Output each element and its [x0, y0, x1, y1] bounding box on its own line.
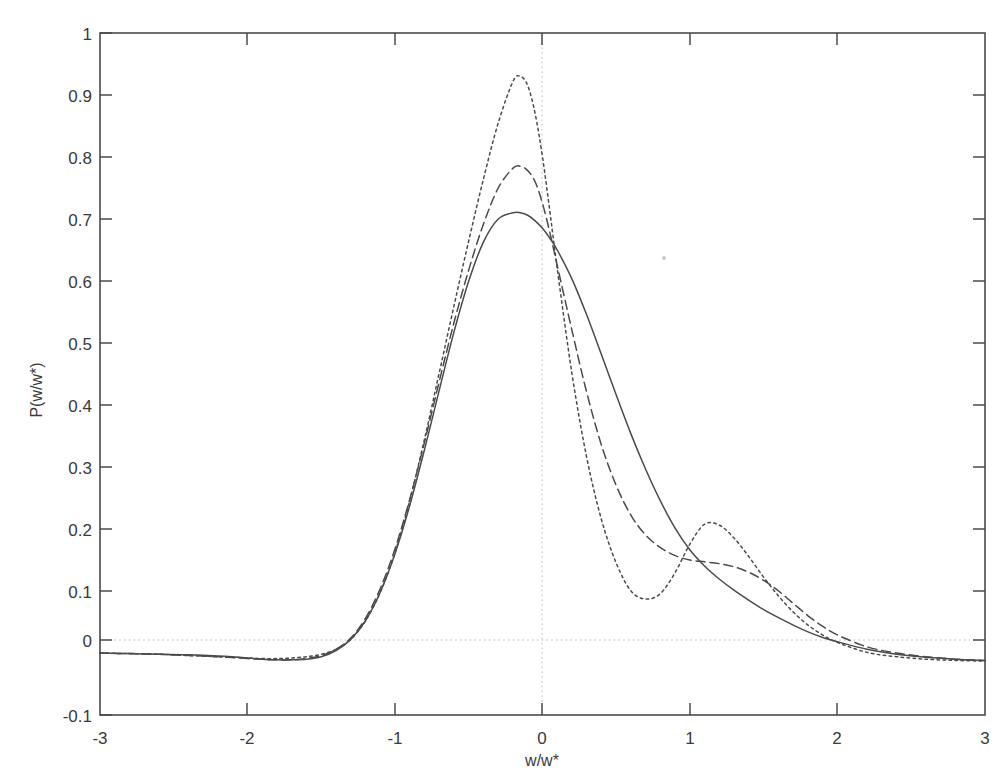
x-tick-label: 0: [537, 729, 546, 748]
y-tick-label: 0.1: [68, 583, 92, 602]
y-tick-label: 0.7: [68, 211, 92, 230]
x-axis-title: w/w*: [524, 752, 559, 769]
x-tick-label: -2: [239, 729, 254, 748]
x-tick-label: -1: [387, 729, 402, 748]
x-tick-label: 1: [685, 729, 694, 748]
y-tick-label: 0.4: [68, 397, 92, 416]
x-tick-label: -3: [92, 729, 107, 748]
y-axis-title: P(w/w*): [28, 362, 45, 417]
x-tick-labels: -3 -2 -1 0 1 2 3: [92, 729, 989, 748]
chart-plot: 1 0.9 0.8 0.7 0.6 0.5 0.4 0.3 0.2 0.1 0 …: [0, 0, 1001, 775]
scan-speck: [662, 256, 666, 260]
y-tick-label: 0.2: [68, 521, 92, 540]
y-tick-label: 0.3: [68, 459, 92, 478]
y-tick-label: 0.8: [68, 149, 92, 168]
figure-container: 1 0.9 0.8 0.7 0.6 0.5 0.4 0.3 0.2 0.1 0 …: [0, 0, 1001, 775]
y-tick-label: 0: [83, 632, 92, 651]
y-tick-label: 0.5: [68, 335, 92, 354]
x-tick-label: 3: [980, 729, 989, 748]
x-tick-label: 2: [832, 729, 841, 748]
y-tick-labels: 1 0.9 0.8 0.7 0.6 0.5 0.4 0.3 0.2 0.1 0 …: [63, 25, 92, 726]
y-tick-label: -0.1: [63, 707, 92, 726]
y-tick-label: 1: [83, 25, 92, 44]
y-tick-label: 0.9: [68, 87, 92, 106]
y-tick-label: 0.6: [68, 273, 92, 292]
